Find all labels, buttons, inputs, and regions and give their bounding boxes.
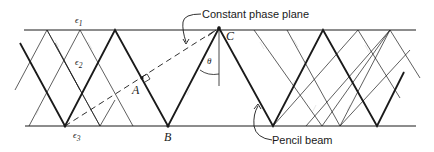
epsilon-1-label: ϵ1 xyxy=(75,16,82,27)
constant-phase-leader xyxy=(183,14,201,42)
point-c-label: C xyxy=(226,30,234,42)
theta-arc xyxy=(200,70,219,75)
constant-phase-plane-label: Constant phase plane xyxy=(202,9,309,20)
angle-theta-label: θ xyxy=(207,57,211,66)
waveguide-ray-diagram xyxy=(0,0,434,152)
pencil-beam-label: Pencil beam xyxy=(272,135,333,146)
point-b-dot xyxy=(166,124,169,127)
epsilon-2-label: ϵ2 xyxy=(75,58,82,69)
point-a-label: A xyxy=(132,84,139,96)
pencil-beam-leader xyxy=(254,106,272,140)
thin-rays xyxy=(15,30,420,126)
point-a-dot xyxy=(140,76,143,79)
point-b-label: B xyxy=(164,131,171,143)
point-e3-dot xyxy=(64,125,67,128)
epsilon-3-label: ϵ3 xyxy=(73,131,80,142)
